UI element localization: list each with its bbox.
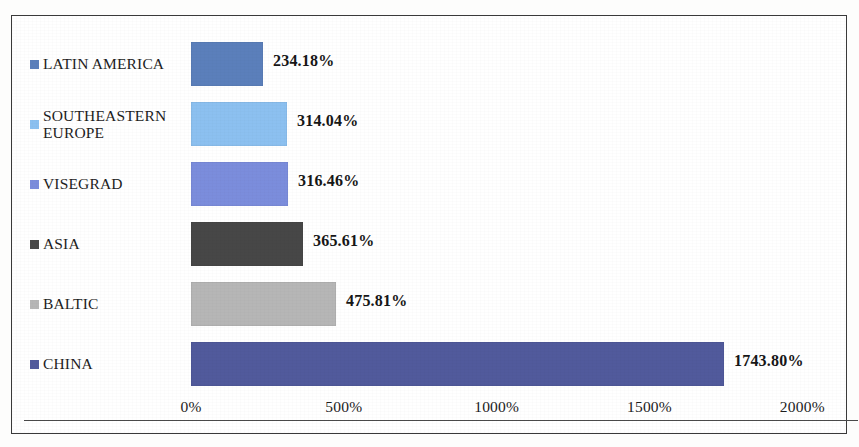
x-tick-label: 1000% <box>474 398 519 416</box>
bar-southeastern-europe[interactable] <box>191 102 287 146</box>
bar-row: SOUTHEASTERN EUROPE314.04% <box>12 94 846 154</box>
bar-value-label: 365.61% <box>313 232 374 250</box>
legend-swatch-icon <box>30 180 39 189</box>
legend-item-china[interactable]: CHINA <box>30 334 200 394</box>
legend-item-asia[interactable]: ASIA <box>30 214 200 274</box>
bar-baltic[interactable] <box>191 282 336 326</box>
legend-item-label: ASIA <box>43 235 80 252</box>
bar-row: CHINA1743.80% <box>12 334 846 394</box>
x-tick-label: 1500% <box>627 398 672 416</box>
bar-row: LATIN AMERICA234.18% <box>12 34 846 94</box>
bar-value-label: 316.46% <box>298 172 359 190</box>
bar-row: ASIA365.61% <box>12 214 846 274</box>
bar-value-label: 1743.80% <box>734 352 804 370</box>
legend-swatch-icon <box>30 120 39 129</box>
legend-swatch-icon <box>30 60 39 69</box>
bar-value-label: 314.04% <box>297 112 358 130</box>
bar-chart-figure: LATIN AMERICA234.18%SOUTHEASTERN EUROPE3… <box>0 0 859 447</box>
legend-item-label: BALTIC <box>43 295 98 312</box>
bar-row: BALTIC475.81% <box>12 274 846 334</box>
legend-swatch-icon <box>30 360 39 369</box>
bar-value-label: 234.18% <box>273 52 334 70</box>
bar-track: 365.61% <box>191 214 764 274</box>
bar-china[interactable] <box>191 342 724 386</box>
legend-item-southeastern-europe[interactable]: SOUTHEASTERN EUROPE <box>30 94 200 154</box>
x-tick-label: 500% <box>325 398 362 416</box>
bar-track: 1743.80% <box>191 334 764 394</box>
bar-track: 316.46% <box>191 154 764 214</box>
legend-swatch-icon <box>30 300 39 309</box>
legend-item-label: CHINA <box>43 355 93 372</box>
bar-value-label: 475.81% <box>346 292 407 310</box>
legend-item-label: LATIN AMERICA <box>43 55 164 72</box>
bar-track: 475.81% <box>191 274 764 334</box>
bar-track: 234.18% <box>191 34 764 94</box>
x-axis-line <box>24 420 858 421</box>
bar-asia[interactable] <box>191 222 303 266</box>
legend-item-visegrad[interactable]: VISEGRAD <box>30 154 200 214</box>
bar-latin-america[interactable] <box>191 42 263 86</box>
x-tick-label: 2000% <box>780 398 825 416</box>
legend-swatch-icon <box>30 240 39 249</box>
legend-item-label: VISEGRAD <box>43 175 123 192</box>
legend-item-label: SOUTHEASTERN EUROPE <box>43 107 166 142</box>
bar-track: 314.04% <box>191 94 764 154</box>
bar-visegrad[interactable] <box>191 162 288 206</box>
x-tick-label: 0% <box>180 398 201 416</box>
legend-item-latin-america[interactable]: LATIN AMERICA <box>30 34 200 94</box>
bar-row: VISEGRAD316.46% <box>12 154 846 214</box>
legend-item-baltic[interactable]: BALTIC <box>30 274 200 334</box>
plot-area-frame: LATIN AMERICA234.18%SOUTHEASTERN EUROPE3… <box>11 15 847 434</box>
